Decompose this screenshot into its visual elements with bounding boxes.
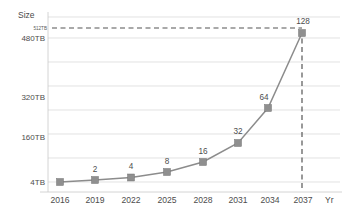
data-markers	[57, 30, 306, 186]
x-tick-labels: 2016 2019 2022 2025 2028 2031 2034 2037	[50, 195, 312, 205]
data-point-2028[interactable]	[200, 159, 207, 166]
y-axis-title: Size	[18, 10, 35, 20]
data-label-2034: 64	[259, 93, 269, 102]
data-point-2034[interactable]	[265, 105, 272, 112]
data-label-2028: 16	[198, 147, 208, 156]
x-tick-2037: 2037	[293, 195, 312, 205]
data-label-2025: 8	[165, 157, 170, 166]
x-tick-2031: 2031	[228, 195, 247, 205]
data-point-2019[interactable]	[92, 177, 99, 184]
x-tick-2019: 2019	[85, 195, 104, 205]
x-tick-2034: 2034	[260, 195, 279, 205]
data-point-labels: 2 4 8 16 32 64 128	[93, 17, 311, 174]
data-label-2019: 2	[93, 165, 98, 174]
data-point-2016[interactable]	[57, 179, 64, 186]
gridlines	[48, 17, 340, 182]
data-point-2031[interactable]	[235, 140, 242, 147]
data-point-2025[interactable]	[164, 169, 171, 176]
y-tick-512tb-label: 512TB	[33, 26, 47, 31]
x-axis-title: Yr	[325, 195, 334, 205]
y-tick-320tb: 320TB	[21, 93, 45, 102]
x-tick-2028: 2028	[193, 195, 212, 205]
y-tick-4tb: 4TB	[30, 178, 45, 187]
data-point-2037[interactable]	[299, 30, 306, 37]
x-tick-2016: 2016	[50, 195, 69, 205]
x-tick-2022: 2022	[121, 195, 140, 205]
data-label-2022: 4	[129, 162, 134, 171]
y-tick-160tb: 160TB	[21, 133, 45, 142]
data-label-2037: 128	[296, 17, 310, 26]
x-tick-2025: 2025	[157, 195, 176, 205]
y-tick-480tb: 480TB	[21, 34, 45, 43]
data-point-2022[interactable]	[128, 174, 135, 181]
chart-container: Size Yr 480TB 320TB 160TB 4TB 512TB	[0, 0, 348, 223]
line-chart: Size Yr 480TB 320TB 160TB 4TB 512TB	[0, 0, 348, 223]
data-label-2031: 32	[233, 127, 243, 136]
